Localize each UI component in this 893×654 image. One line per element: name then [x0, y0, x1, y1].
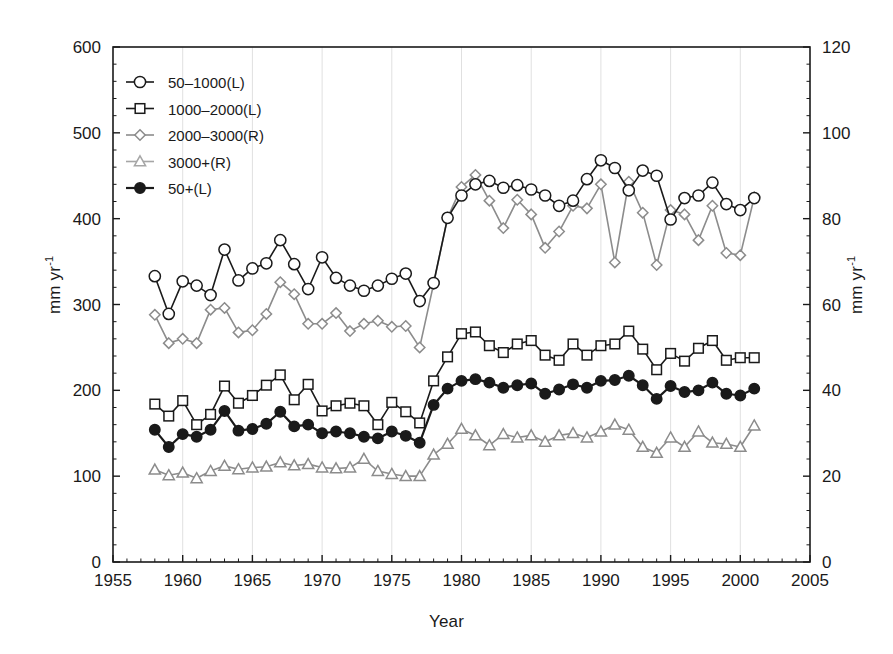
- data-point-open-triangle: [428, 449, 439, 459]
- data-point-open-diamond: [582, 203, 592, 213]
- data-point-open-diamond: [373, 316, 383, 326]
- data-point-open-diamond: [178, 334, 188, 344]
- data-point-open-square: [708, 336, 718, 346]
- data-point-open-diamond: [233, 327, 243, 337]
- y-tick-label-left: 0: [92, 553, 101, 572]
- legend-entry[interactable]: 2000–3000(R): [126, 127, 264, 144]
- data-point-open-square: [262, 380, 272, 390]
- data-point-open-circle: [317, 252, 328, 263]
- y-tick-label-right: 80: [822, 210, 841, 229]
- data-point-open-diamond: [401, 321, 411, 331]
- data-point-open-square: [568, 339, 578, 349]
- data-point-open-triangle: [567, 428, 578, 438]
- data-point-open-diamond: [135, 130, 145, 140]
- x-tick-label: 1965: [233, 571, 271, 590]
- legend-entry[interactable]: 50–1000(L): [126, 74, 245, 91]
- data-point-filled-circle: [693, 385, 703, 395]
- data-point-open-triangle: [749, 420, 760, 430]
- data-point-open-square: [275, 370, 285, 380]
- data-point-open-circle: [526, 184, 537, 195]
- data-point-filled-circle: [247, 424, 257, 434]
- y-tick-label-right: 100: [822, 124, 850, 143]
- data-point-open-circle: [205, 289, 216, 300]
- data-point-open-circle: [512, 180, 523, 191]
- y-tick-label-left: 200: [73, 381, 101, 400]
- data-point-open-square: [680, 356, 690, 366]
- data-point-open-square: [736, 353, 746, 363]
- data-point-open-circle: [665, 214, 676, 225]
- data-point-filled-circle: [596, 376, 606, 386]
- data-point-open-diamond: [610, 257, 620, 267]
- x-tick-label: 1985: [512, 571, 550, 590]
- data-point-open-square: [666, 349, 676, 359]
- data-point-open-triangle: [665, 432, 676, 442]
- data-point-filled-circle: [345, 428, 355, 438]
- data-point-open-square: [471, 327, 481, 337]
- data-point-open-square: [443, 352, 453, 362]
- data-point-open-circle: [386, 273, 397, 284]
- data-point-filled-circle: [233, 425, 243, 435]
- data-point-filled-circle: [359, 431, 369, 441]
- data-point-open-diamond: [484, 195, 494, 205]
- data-point-open-diamond: [498, 223, 508, 233]
- data-point-open-circle: [567, 195, 578, 206]
- legend-label: 3000+(R): [168, 154, 231, 171]
- data-point-open-square: [178, 396, 188, 406]
- x-tick-label: 1975: [373, 571, 411, 590]
- data-point-open-square: [652, 365, 662, 375]
- data-point-open-circle: [456, 190, 467, 201]
- data-point-filled-circle: [470, 374, 480, 384]
- legend-label: 1000–2000(L): [168, 101, 261, 118]
- x-tick-label: 2000: [721, 571, 759, 590]
- data-point-open-circle: [149, 271, 160, 282]
- data-point-filled-circle: [205, 425, 215, 435]
- data-point-filled-circle: [442, 383, 452, 393]
- legend-label: 50+(L): [168, 180, 212, 197]
- data-point-filled-circle: [150, 425, 160, 435]
- data-point-open-circle: [693, 190, 704, 201]
- legend-label: 2000–3000(R): [168, 127, 264, 144]
- data-point-filled-circle: [164, 442, 174, 452]
- series-open-square: [150, 326, 759, 429]
- legend-entry[interactable]: 50+(L): [126, 180, 212, 197]
- legend-entry[interactable]: 3000+(R): [126, 154, 231, 171]
- data-point-open-circle: [191, 280, 202, 291]
- y-tick-label-left: 400: [73, 210, 101, 229]
- data-point-open-circle: [581, 174, 592, 185]
- y-tick-label-left: 500: [73, 124, 101, 143]
- data-point-open-square: [429, 376, 439, 386]
- data-point-open-square: [192, 420, 202, 430]
- data-point-open-circle: [261, 258, 272, 269]
- plot-area: 1955196019651970197519801985199019952000…: [0, 0, 893, 654]
- data-point-open-square: [554, 355, 564, 365]
- legend-entry[interactable]: 1000–2000(L): [126, 101, 261, 118]
- data-point-open-square: [526, 336, 536, 346]
- y-tick-label-right: 60: [822, 296, 841, 315]
- x-tick-label: 1955: [94, 571, 132, 590]
- data-point-filled-circle: [540, 389, 550, 399]
- data-point-open-square: [512, 339, 522, 349]
- chart-legend: 50–1000(L)1000–2000(L)2000–3000(R)3000+(…: [126, 74, 264, 197]
- data-point-open-diamond: [735, 250, 745, 260]
- x-tick-label: 1970: [303, 571, 341, 590]
- data-point-open-circle: [289, 259, 300, 270]
- data-point-open-diamond: [721, 248, 731, 258]
- data-series: [149, 155, 760, 483]
- x-tick-label: 2005: [791, 571, 829, 590]
- data-point-filled-circle: [428, 400, 438, 410]
- data-point-open-square: [415, 418, 425, 428]
- data-point-open-diamond: [303, 319, 313, 329]
- data-point-open-diamond: [205, 304, 215, 314]
- data-point-open-circle: [721, 198, 732, 209]
- data-point-filled-circle: [582, 383, 592, 393]
- data-point-filled-circle: [484, 377, 494, 387]
- data-point-open-diamond: [164, 338, 174, 348]
- data-point-filled-circle: [219, 406, 229, 416]
- data-point-open-square: [499, 348, 509, 358]
- series-open-diamond: [150, 170, 760, 353]
- data-point-open-circle: [247, 263, 258, 274]
- data-point-open-square: [248, 391, 258, 401]
- data-point-filled-circle: [651, 394, 661, 404]
- data-point-filled-circle: [665, 381, 675, 391]
- data-point-open-circle: [749, 192, 760, 203]
